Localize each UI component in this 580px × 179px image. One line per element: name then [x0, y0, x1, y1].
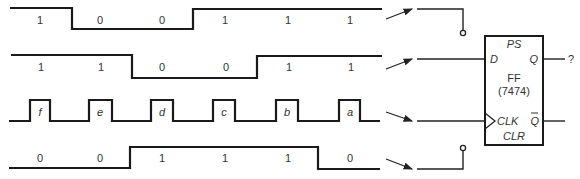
clear-bit-1: 0: [97, 152, 103, 164]
clock-pulse-d: d: [159, 106, 166, 118]
clear-bit-5: 0: [347, 152, 353, 164]
clock-waveform: [9, 100, 380, 121]
clock-pulse-f: f: [38, 106, 42, 118]
clock-pulse-b: b: [284, 106, 290, 118]
arrow-icon: [386, 159, 412, 169]
clock-pulse-e: e: [97, 106, 103, 118]
flipflop-part-number: (7474): [498, 85, 530, 97]
ps-wire: [417, 9, 463, 31]
arrow-icon: [386, 112, 412, 121]
preset-bit-1: 0: [97, 14, 103, 26]
arrow-icon: [386, 59, 412, 69]
clr-wire: [417, 150, 463, 169]
preset-bit-0: 1: [37, 14, 43, 26]
pin-clr-label: CLR: [503, 130, 525, 142]
ps-inversion-bubble: [460, 30, 465, 35]
pin-clk-label: CLK: [497, 115, 519, 127]
q-output-unknown: ?: [568, 53, 574, 65]
data-bit-0: 1: [38, 61, 44, 73]
arrow-icon: [386, 9, 412, 19]
preset-bit-3: 1: [222, 14, 228, 26]
pin-q-label: Q: [529, 53, 538, 65]
data-bit-2: 0: [159, 61, 165, 73]
preset-waveform: [10, 8, 382, 29]
clock-pulse-c: c: [221, 106, 227, 118]
data-bit-4: 1: [286, 61, 292, 73]
data-bit-3: 0: [223, 61, 229, 73]
data-bit-1: 1: [98, 61, 104, 73]
pin-d-label: D: [490, 53, 498, 65]
clear-waveform: [9, 147, 380, 169]
flipflop-title: FF: [507, 72, 521, 84]
clear-bit-4: 1: [285, 152, 291, 164]
data-waveform: [11, 55, 382, 78]
clock-pulse-a: a: [347, 106, 353, 118]
clear-bit-2: 1: [159, 152, 165, 164]
data-bit-5: 1: [348, 61, 354, 73]
pin-qbar-label: Q: [530, 115, 539, 127]
preset-bit-5: 1: [347, 14, 353, 26]
clr-inversion-bubble: [460, 145, 465, 150]
preset-bit-4: 1: [285, 14, 291, 26]
pin-ps-label: PS: [507, 38, 522, 50]
clear-bit-3: 1: [222, 152, 228, 164]
clear-bit-0: 0: [37, 152, 43, 164]
preset-bit-2: 0: [159, 14, 165, 26]
